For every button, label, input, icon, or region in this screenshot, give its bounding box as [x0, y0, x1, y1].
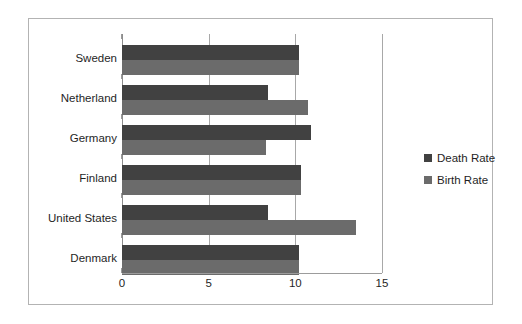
bar-death-rate-united-states	[122, 205, 268, 220]
bar-death-rate-sweden	[122, 45, 299, 60]
category-label-sweden: Sweden	[0, 53, 117, 65]
xtick-label-15: 15	[362, 277, 402, 289]
chart-plot-region: Sweden Netherland Germany Finland United…	[29, 19, 492, 304]
xtick-label-0: 0	[102, 277, 142, 289]
legend-label-death-rate: Death Rate	[437, 152, 495, 164]
category-label-finland: Finland	[0, 173, 117, 185]
bar-death-rate-finland	[122, 165, 301, 180]
bar-death-rate-netherland	[122, 85, 268, 100]
bar-death-rate-denmark	[122, 245, 299, 260]
bar-birth-rate-germany	[122, 140, 266, 155]
legend-swatch-icon-birth-rate	[424, 176, 432, 184]
xtick-label-10: 10	[275, 277, 315, 289]
category-label-united-states: United States	[0, 213, 117, 225]
bar-birth-rate-finland	[122, 180, 301, 195]
legend-item-death-rate: Death Rate	[424, 152, 495, 164]
bar-birth-rate-netherland	[122, 100, 308, 115]
category-label-germany: Germany	[0, 133, 117, 145]
xtick-label-5: 5	[189, 277, 229, 289]
axis-tick-0	[121, 34, 122, 39]
legend-label-birth-rate: Birth Rate	[437, 174, 488, 186]
bar-death-rate-germany	[122, 125, 311, 140]
legend-swatch-icon-death-rate	[424, 154, 432, 162]
bar-birth-rate-sweden	[122, 60, 299, 75]
category-label-netherland: Netherland	[0, 93, 117, 105]
category-label-denmark: Denmark	[0, 253, 117, 265]
bar-birth-rate-united-states	[122, 220, 356, 235]
value-axis-line	[122, 273, 382, 274]
chart-frame: Sweden Netherland Germany Finland United…	[28, 18, 493, 305]
chart-legend: Death Rate Birth Rate	[424, 152, 495, 196]
legend-item-birth-rate: Birth Rate	[424, 174, 495, 186]
plot-area	[122, 34, 382, 273]
gridline-15	[382, 34, 383, 273]
